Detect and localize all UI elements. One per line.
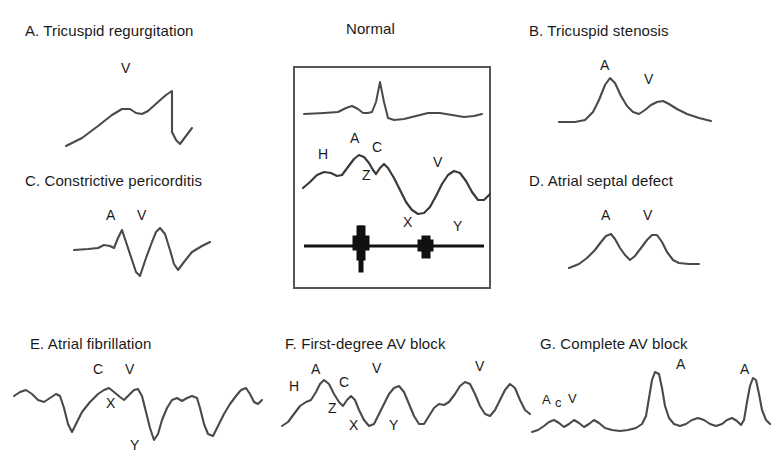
panel-g-waveform [528,362,768,444]
panel-g-label-v: V [568,392,577,405]
panel-f-label-v2: V [475,359,484,373]
panel-f-label-c: C [339,375,349,389]
panel-g-label-a2: A [676,357,685,371]
panel-e-title: E. Atrial fibrillation [30,335,151,352]
panel-e-label-y: Y [130,438,139,452]
panel-normal-title: Normal [346,20,395,37]
panel-b-label-a: A [600,58,609,72]
panel-f-label-z: Z [328,401,337,415]
normal-label-h: H [318,147,328,161]
panel-f-label-v1: V [372,361,381,375]
normal-label-y: Y [453,219,462,233]
panel-g-label-a1: A [542,393,551,406]
normal-ecg-trace [300,72,486,130]
heart-sound-s1-marker [353,226,369,272]
normal-label-x: X [403,215,412,229]
panel-a-title: A. Tricuspid regurgitation [25,22,194,39]
jvp-waveform-figure: A. Tricuspid regurgitation V Normal [0,0,772,475]
normal-label-a: A [350,131,359,145]
panel-b-label-v: V [644,72,653,86]
panel-d-label-a: A [601,208,610,222]
panel-c-title: C. Constrictive pericorditis [25,172,202,189]
panel-d-label-v: V [643,208,652,222]
panel-f-label-x: X [349,418,358,432]
panel-d-waveform [565,210,705,282]
panel-b-waveform [555,60,715,140]
panel-b-title: B. Tricuspid stenosis [529,22,669,39]
panel-g-title: G. Complete AV block [540,335,688,352]
panel-f-label-h: H [289,379,299,393]
panel-c-label-a: A [106,208,115,222]
panel-e-label-x: X [106,396,115,410]
panel-d-title: D. Atrial septal defect [529,172,673,189]
panel-f-label-a: A [311,362,320,376]
panel-g-label-a3: A [740,362,749,376]
panel-e-label-c: C [93,362,103,376]
panel-g-label-c: c [555,396,562,409]
panel-f-title: F. First-degree AV block [285,335,446,352]
normal-label-c: C [372,140,382,154]
panel-f-label-y: Y [389,418,398,432]
panel-a-label-v: V [121,61,130,75]
heart-sound-s2-marker [418,236,433,258]
panel-c-label-v: V [137,208,146,222]
panel-e-label-v: V [125,362,134,376]
normal-label-z: Z [362,168,371,182]
normal-label-v: V [433,155,442,169]
